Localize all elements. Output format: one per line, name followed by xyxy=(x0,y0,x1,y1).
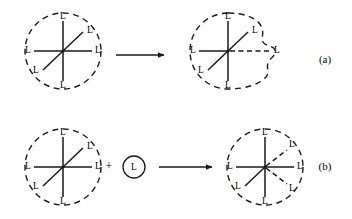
figure-root: L L L L L L L xyxy=(0,0,352,219)
incoming-ligand-label: L xyxy=(131,162,137,172)
ligand-label: L xyxy=(33,181,39,191)
ligand-label: L xyxy=(262,196,268,206)
ligand-label: L xyxy=(33,65,39,75)
ligand-label: L xyxy=(60,80,66,90)
ligand-label: L xyxy=(252,25,258,35)
metal-center xyxy=(61,165,64,168)
ligand-label-partial: L xyxy=(289,183,295,193)
metal-center xyxy=(263,165,266,168)
ligand-label: L xyxy=(60,127,66,137)
ligand-label: L xyxy=(95,45,101,55)
ligand-label: L xyxy=(227,161,233,171)
ligand-label: L xyxy=(87,141,93,151)
metal-center xyxy=(61,49,64,52)
ligand-label: L xyxy=(95,161,101,171)
ligand-label: L xyxy=(297,161,303,171)
ligand-label: L xyxy=(60,196,66,206)
metal-center xyxy=(226,49,229,52)
ligand-label: L xyxy=(262,127,268,137)
row-label-b: (b) xyxy=(319,160,332,173)
row-label-a: (a) xyxy=(319,53,332,66)
ligand-label: L xyxy=(60,11,66,21)
ligand-label: L xyxy=(190,45,196,55)
ligand-label: L xyxy=(225,11,231,21)
ligand-label: L xyxy=(225,80,231,90)
ligand-label-partial: L xyxy=(289,139,295,149)
ligand-label: L xyxy=(235,181,241,191)
ligand-label: L xyxy=(25,161,31,171)
ligand-label: L xyxy=(87,25,93,35)
plus-sign: + xyxy=(106,159,113,173)
mechanism-diagram: L L L L L L L xyxy=(0,0,352,219)
figure-background xyxy=(0,0,352,219)
ligand-label: L xyxy=(25,45,31,55)
ligand-label: L xyxy=(198,65,204,75)
ligand-label-dissociating: L xyxy=(274,45,280,55)
